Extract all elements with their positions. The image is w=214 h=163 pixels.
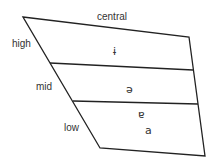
row-label-mid: mid: [36, 81, 52, 92]
vowel-chart: central high mid low ɨ ə ɐ a: [0, 0, 214, 163]
vowel-near-low-central: ɐ: [138, 108, 145, 121]
vowel-mid-central: ə: [126, 83, 133, 96]
row-label-high: high: [12, 38, 31, 49]
vowel-low-central: a: [145, 124, 152, 137]
vowel-high-central: ɨ: [113, 45, 116, 58]
high-mid-divider: [50, 63, 193, 70]
mid-low-divider: [73, 101, 198, 104]
column-label-central: central: [97, 11, 127, 22]
row-label-low: low: [64, 122, 80, 133]
